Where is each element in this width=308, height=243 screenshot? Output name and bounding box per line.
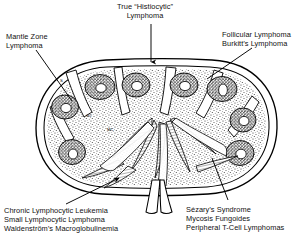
label-sezary-t-cell-group: Sézary’s Syndrome Mycosis Fungoides Peri… (186, 205, 284, 233)
label-true-histiocytic-lymphoma: True “Histiocytic” Lymphoma (95, 2, 195, 20)
label-line: Waldenström’s Macroglobulinemia (4, 224, 118, 233)
label-line: Lymphoma (95, 11, 195, 20)
label-line: Follicular Lymphoma (222, 30, 291, 39)
label-chronic-lymphocytic-group: Chronic Lymphocytic Leukemia Small Lymph… (4, 206, 118, 234)
follicle (122, 73, 150, 97)
follicle (207, 77, 237, 102)
label-line: Peripheral T-Cell Lymphomas (186, 223, 284, 232)
follicle (230, 108, 256, 132)
lymph-node-diagram: True “Histiocytic” Lymphoma Mantle Zone … (0, 0, 308, 243)
label-follicular-burkitt-lymphoma: Follicular Lymphoma Burkitt’s Lymphoma (222, 30, 291, 48)
follicle (170, 73, 198, 97)
label-line: Mycosis Fungoides (186, 214, 284, 223)
label-germinal-center: GC (86, 114, 91, 118)
label-line: Lymphoma (6, 41, 48, 50)
label-line: True “Histiocytic” (95, 2, 195, 11)
follicle (59, 140, 86, 165)
label-subcapsular-sinus: S (60, 78, 63, 83)
follicle (52, 95, 79, 119)
follicle (85, 75, 115, 100)
label-medullary-cords: MC (107, 127, 114, 132)
label-line: Mantle Zone (6, 32, 48, 41)
follicle (226, 141, 254, 166)
label-line: Chronic Lymphocytic Leukemia (4, 206, 118, 215)
label-line: Sézary’s Syndrome (186, 205, 284, 214)
label-line: Small Lymphocytic Lymphoma (4, 215, 118, 224)
label-mantle-zone-lymphoma: Mantle Zone Lymphoma (6, 32, 48, 50)
label-line: Burkitt’s Lymphoma (222, 39, 291, 48)
